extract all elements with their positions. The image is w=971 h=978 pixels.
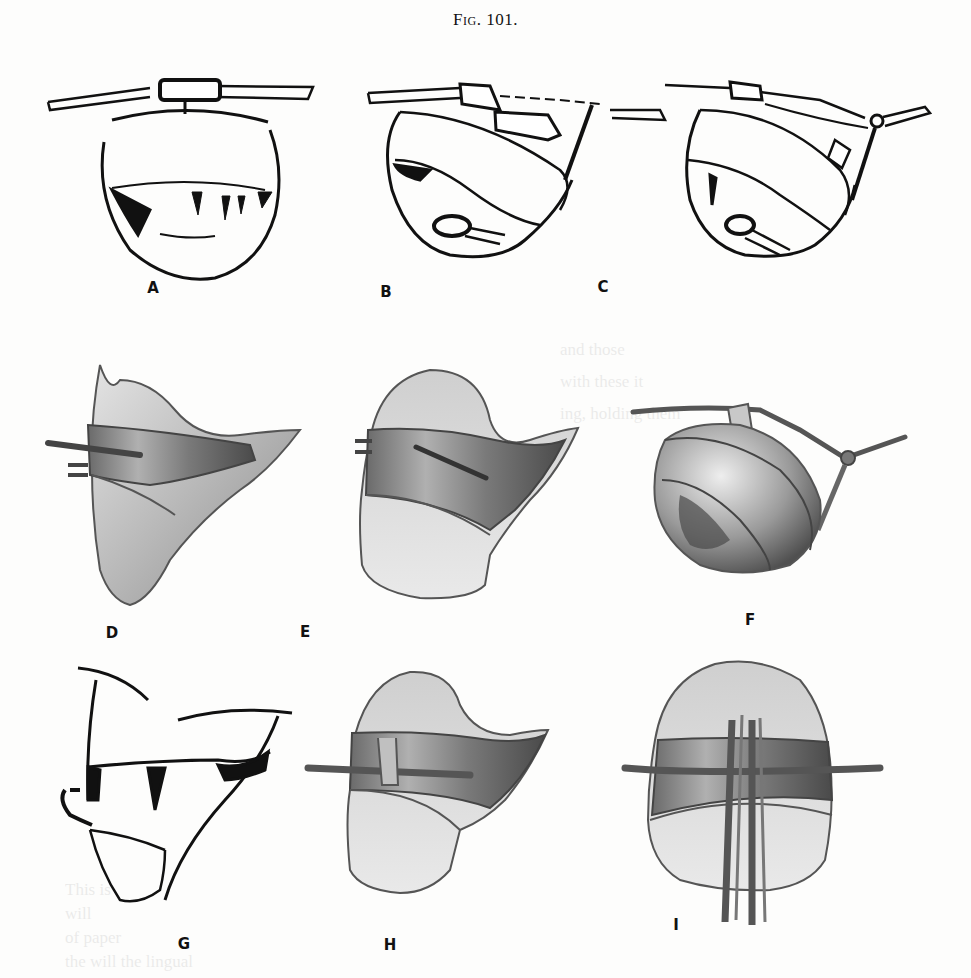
panel-label-g: G <box>178 935 190 953</box>
panel-label-f: F <box>745 611 755 629</box>
panel-d-drawing <box>48 365 300 605</box>
panel-label-i: I <box>673 916 679 934</box>
panel-label-d: D <box>106 624 118 642</box>
panel-g-drawing <box>62 668 292 901</box>
panel-a-drawing <box>48 80 313 279</box>
panel-label-h: H <box>384 936 397 954</box>
panel-e-drawing <box>355 370 578 598</box>
book-page: Fig. 101. and those with these it ing, h… <box>0 0 971 978</box>
panel-h-drawing <box>308 672 548 893</box>
panel-label-b: B <box>380 283 391 301</box>
panel-b-drawing <box>368 84 665 257</box>
panel-label-e: E <box>300 623 310 641</box>
panel-label-c: C <box>597 278 608 296</box>
figure-artwork <box>0 0 971 978</box>
panel-i-drawing <box>625 662 880 925</box>
panel-c-drawing <box>665 82 930 256</box>
panel-label-a: A <box>147 279 159 297</box>
panel-f-drawing <box>633 404 905 573</box>
